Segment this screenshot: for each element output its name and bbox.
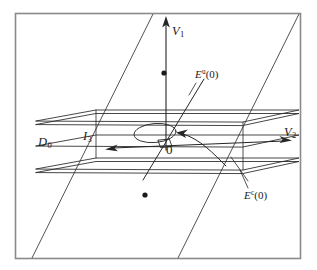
label-ec-base: E [244,189,251,201]
diagram-canvas [0,0,317,270]
label-origin: 0 [166,143,173,156]
label-v1: V1 [172,25,184,39]
label-center-manifold: Ec(0) [244,190,267,201]
label-v2-base: V [284,125,292,139]
label-eu-arg: (0) [206,68,219,80]
label-ec-arg: (0) [254,189,267,201]
label-v2: V2 [284,126,296,140]
label-d0-sub: 0 [47,140,52,150]
lower-dot [142,192,147,197]
label-domain-d0: D0 [38,136,52,150]
label-i3-sub: 3 [87,134,92,144]
label-unstable-manifold: Eu(0) [195,69,218,80]
label-eu-base: E [195,68,202,80]
label-v2-sub: 2 [292,130,297,140]
label-v1-sub: 1 [180,29,185,39]
label-v1-base: V [172,24,180,38]
figure-frame [16,14,301,259]
upper-dot [161,70,166,75]
figure-page: V1 V2 Eu(0) Ec(0) D0 I3 0 [0,0,317,270]
label-interval-i3: I3 [83,130,92,144]
label-d0-base: D [38,135,47,149]
